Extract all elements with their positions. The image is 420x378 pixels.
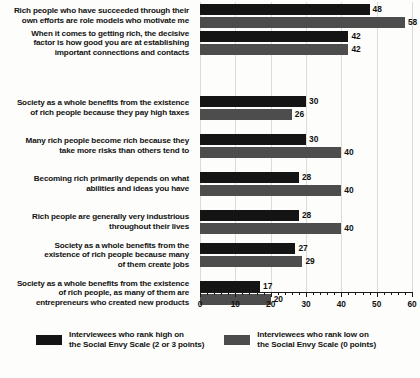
minor-tick-12 (242, 292, 243, 295)
chart-row: Rich people who have succeeded through t… (0, 4, 420, 28)
category-label-line: of rich people because they pay high tax… (0, 108, 189, 118)
bar-high: 48 (200, 4, 420, 15)
minor-tick-2 (207, 292, 208, 295)
category-label-line: Society as a whole benefits from the exi… (0, 98, 189, 108)
bar-value-label: 42 (351, 45, 360, 53)
major-tick-30 (306, 292, 307, 297)
minor-tick-4 (214, 292, 215, 295)
minor-tick-34 (320, 292, 321, 295)
category-label-line: take more risks than others tend to (0, 146, 189, 156)
legend-swatch-low (224, 335, 250, 345)
bar-rect (200, 134, 306, 145)
minor-tick-26 (292, 292, 293, 295)
bar-group: 2840 (195, 172, 420, 196)
minor-tick-36 (327, 292, 328, 295)
bar-high: 17 (200, 281, 420, 292)
bar-high: 42 (200, 31, 420, 42)
bar-value-label: 30 (309, 97, 318, 105)
minor-tick-58 (405, 292, 406, 295)
minor-tick-48 (370, 292, 371, 295)
bar-low: 40 (200, 223, 420, 234)
category-label-line: entrepreneurs who created new products (0, 298, 189, 308)
bar-high: 28 (200, 210, 420, 221)
category-label: When it comes to getting rich, the decis… (0, 29, 195, 58)
bar-value-label: 30 (309, 135, 318, 143)
category-label-line: factor is how good you are at establishi… (0, 38, 189, 48)
bar-low: 26 (200, 109, 420, 120)
bar-high: 30 (200, 96, 420, 107)
bar-rect (200, 223, 341, 234)
minor-tick-24 (285, 292, 286, 295)
bar-rect (200, 44, 348, 55)
x-tick-label: 60 (407, 299, 416, 309)
bar-value-label: 58 (408, 18, 417, 26)
bar-value-label: 26 (295, 110, 304, 118)
category-label-line: existence of rich people because many (0, 250, 189, 260)
category-label-line: When it comes to getting rich, the decis… (0, 29, 189, 39)
bar-value-label: 42 (351, 32, 360, 40)
bar-rect (200, 4, 370, 15)
chart-row: Many rich people become rich because the… (0, 134, 420, 158)
category-label-line: Rich people who have succeeded through t… (0, 6, 189, 16)
legend-label: Interviewees who rank low on the Social … (257, 330, 376, 351)
bar-low: 40 (200, 147, 420, 158)
category-label-line: of rich people, as many of them are (0, 288, 189, 298)
major-tick-10 (235, 292, 236, 297)
bar-rect (200, 96, 306, 107)
category-label: Rich people who have succeeded through t… (0, 6, 195, 25)
minor-tick-22 (278, 292, 279, 295)
legend-swatch-high (36, 335, 62, 345)
x-tick-label: 20 (266, 299, 275, 309)
category-label-line: of them create jobs (0, 260, 189, 270)
category-label-line: important connections and contacts (0, 48, 189, 58)
major-tick-50 (377, 292, 378, 297)
category-label: Many rich people become rich because the… (0, 136, 195, 155)
category-label-line: Society as a whole benefits from the exi… (0, 279, 189, 289)
x-tick-label: 40 (337, 299, 346, 309)
bar-rect (200, 243, 295, 254)
bar-group: 4858 (195, 4, 420, 28)
category-label: Society as a whole benefits from the exi… (0, 98, 195, 117)
bar-low: 42 (200, 44, 420, 55)
category-label-line: Many rich people become rich because the… (0, 136, 189, 146)
legend-item[interactable]: Interviewees who rank high on the Social… (36, 330, 204, 351)
bar-group: 2729 (195, 243, 420, 267)
minor-tick-46 (363, 292, 364, 295)
minor-tick-28 (299, 292, 300, 295)
category-label: Rich people are generally very industrio… (0, 212, 195, 231)
bar-low: 58 (200, 17, 420, 28)
bar-group: 3040 (195, 134, 420, 158)
bar-rect (200, 17, 405, 28)
bar-rect (200, 147, 341, 158)
bar-group: 2840 (195, 210, 420, 234)
x-tick-label: 50 (372, 299, 381, 309)
bar-value-label: 27 (298, 244, 307, 252)
bar-value-label: 28 (302, 211, 311, 219)
chart-row: Rich people are generally very industrio… (0, 210, 420, 234)
minor-tick-32 (313, 292, 314, 295)
legend-label: Interviewees who rank high on the Social… (69, 330, 204, 351)
chart-legend: Interviewees who rank high on the Social… (0, 330, 420, 351)
bar-value-label: 40 (344, 186, 353, 194)
bar-rect (200, 281, 260, 292)
major-tick-60 (412, 292, 413, 297)
bar-value-label: 40 (344, 148, 353, 156)
minor-tick-38 (334, 292, 335, 295)
category-label-line: throughout their lives (0, 222, 189, 232)
bar-rect (200, 31, 348, 42)
bar-group: 4242 (195, 31, 420, 55)
major-tick-0 (200, 292, 201, 297)
x-tick-label: 0 (198, 299, 203, 309)
category-label-line: Rich people are generally very industrio… (0, 212, 189, 222)
category-label-line: own efforts are role models who motivate… (0, 16, 189, 26)
bar-chart-figure: Rich people who have succeeded through t… (0, 0, 420, 378)
minor-tick-44 (355, 292, 356, 295)
bar-low: 40 (200, 185, 420, 196)
legend-item[interactable]: Interviewees who rank low on the Social … (224, 330, 376, 351)
bar-value-label: 28 (302, 173, 311, 181)
bar-rect (200, 109, 292, 120)
major-tick-20 (271, 292, 272, 297)
minor-tick-42 (348, 292, 349, 295)
minor-tick-6 (221, 292, 222, 295)
bar-high: 27 (200, 243, 420, 254)
